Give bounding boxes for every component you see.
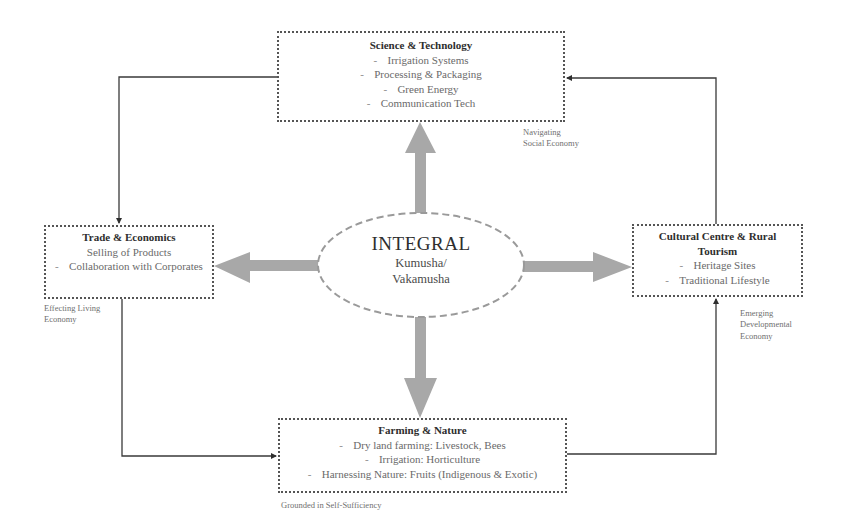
bullet-dash: - [55,259,69,274]
list-item: -Harnessing Nature: Fruits (Indigenous &… [286,467,559,482]
caption-emerging-developmental-economy: Emerging Developmental Economy [740,308,810,342]
caption-effecting-living-economy: Effecting Living Economy [44,303,124,326]
list-item: -Collaboration with Corporates [52,259,206,274]
node-title: Farming & Nature [286,423,559,438]
caption-navigating-social-economy: Navigating Social Economy [523,127,583,150]
node-title: Trade & Economics [52,230,206,245]
bullet-dash: - [365,452,379,467]
list-item: -Traditional Lifestyle [640,273,795,288]
bullet-dash: - [383,82,397,97]
bullet-dash: - [665,273,679,288]
connector-farming-to-cultural [567,299,716,454]
hub-title: INTEGRAL [318,233,524,255]
list-item: -Irrigation Systems [285,53,557,68]
list-item: -Irrigation: Horticulture [286,452,559,467]
bullet-dash: - [308,467,322,482]
node-title: Science & Technology [285,38,557,53]
list-item: -Dry land farming: Livestock, Bees [286,438,559,453]
node-science-technology: Science & Technology -Irrigation Systems… [277,31,565,122]
hub-integral: INTEGRAL Kumusha/ Vakamusha [318,213,524,317]
arrow-down-to-farming [404,317,437,418]
diagram-canvas: INTEGRAL Kumusha/ Vakamusha Science & Te… [0,0,849,532]
list-item: Selling of Products [52,245,206,260]
connector-cultural-to-science [567,78,716,224]
bullet-dash: - [360,67,374,82]
bullet-dash: - [374,53,388,68]
list-item: -Green Energy [285,82,557,97]
list-item: -Communication Tech [285,96,557,111]
connector-science-to-trade [119,77,277,223]
arrow-right-to-cultural [523,252,632,282]
bullet-dash: - [367,96,381,111]
hub-subtitle-line1: Kumusha/ [318,255,524,271]
arrow-left-to-trade [214,252,319,283]
list-item: -Heritage Sites [640,258,795,273]
arrow-up-to-science [405,122,436,213]
connector-trade-to-farming [122,299,276,456]
node-title: Cultural Centre & Rural Tourism [640,229,795,258]
bullet-dash: - [339,438,353,453]
caption-grounded-self-sufficiency: Grounded in Self-Sufficiency [281,500,441,511]
node-farming-nature: Farming & Nature -Dry land farming: Live… [278,418,567,493]
bullet-dash: - [679,258,693,273]
list-item: -Processing & Packaging [285,67,557,82]
node-cultural-centre-rural-tourism: Cultural Centre & Rural Tourism -Heritag… [632,224,803,297]
node-trade-economics: Trade & Economics Selling of Products -C… [44,225,214,299]
hub-subtitle-line2: Vakamusha [318,271,524,287]
